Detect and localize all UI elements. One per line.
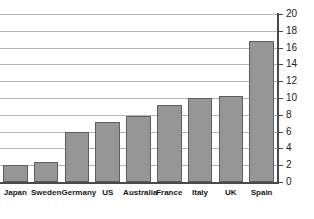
category-label-spain: Spain: [246, 188, 277, 198]
category-label-italy: Italy: [185, 188, 216, 198]
bar-chart: 02468101214161820 JapanSwedenGermanyUSAu…: [0, 0, 314, 219]
y-tick-mark: [279, 14, 283, 15]
bar-sweden: [34, 162, 59, 182]
y-tick-mark: [279, 182, 283, 183]
y-tick-label: 20: [286, 9, 297, 19]
y-tick-mark: [279, 132, 283, 133]
y-tick-label: 12: [286, 76, 297, 86]
x-axis-category-labels: JapanSwedenGermanyUSAustraliaFranceItaly…: [0, 188, 277, 202]
bars-layer: [0, 14, 277, 182]
category-label-japan: Japan: [0, 188, 31, 198]
category-label-germany: Germany: [62, 188, 93, 198]
bar-france: [157, 105, 182, 182]
y-tick-mark: [279, 115, 283, 116]
y-tick-mark: [279, 64, 283, 65]
category-label-uk: UK: [215, 188, 246, 198]
y-tick-label: 8: [286, 110, 292, 120]
category-label-sweden: Sweden: [31, 188, 62, 198]
bar-australia: [126, 116, 151, 182]
y-tick-mark: [279, 81, 283, 82]
bar-uk: [219, 96, 244, 182]
y-tick-label: 16: [286, 43, 297, 53]
y-tick-label: 18: [286, 26, 297, 36]
y-tick-label: 0: [286, 177, 292, 187]
category-label-us: US: [92, 188, 123, 198]
bar-spain: [249, 41, 274, 182]
y-tick-label: 4: [286, 143, 292, 153]
bar-us: [95, 122, 120, 182]
bar-japan: [3, 165, 28, 182]
x-axis-baseline: [0, 182, 278, 184]
bar-germany: [65, 132, 90, 182]
category-label-france: France: [154, 188, 185, 198]
y-tick-label: 10: [286, 93, 297, 103]
bar-italy: [188, 98, 213, 182]
y-tick-mark: [279, 148, 283, 149]
category-label-australia: Australia: [123, 188, 154, 198]
y-tick-mark: [279, 48, 283, 49]
y-tick-label: 2: [286, 160, 292, 170]
y-tick-label: 6: [286, 127, 292, 137]
y-tick-mark: [279, 31, 283, 32]
y-tick-label: 14: [286, 59, 297, 69]
y-tick-mark: [279, 165, 283, 166]
y-tick-mark: [279, 98, 283, 99]
